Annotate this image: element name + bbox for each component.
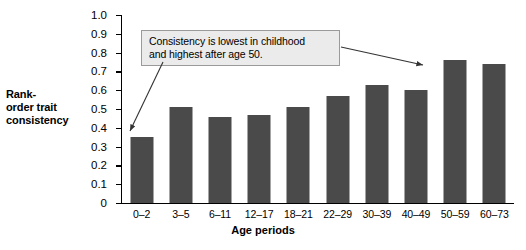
y-axis-tick-label: 0.5 xyxy=(77,103,107,115)
x-axis-tick-label: 50–59 xyxy=(441,208,470,220)
bar-group: 60–73 xyxy=(475,15,514,203)
bar-group: 40–49 xyxy=(396,15,435,203)
y-axis-tick-label: 0.8 xyxy=(77,47,107,59)
x-axis-line xyxy=(121,203,514,204)
bar xyxy=(444,60,467,203)
annotation-callout: Consistency is lowest in childhood and h… xyxy=(141,30,340,66)
bar xyxy=(130,137,153,203)
annotation-line-1: Consistency is lowest in childhood xyxy=(149,35,333,48)
y-axis-tick-label: 0.2 xyxy=(77,159,107,171)
x-axis-title: Age periods xyxy=(0,224,526,236)
bar xyxy=(248,115,271,203)
x-axis-tick-label: 3–5 xyxy=(172,208,189,220)
y-axis-tick-label: 1.0 xyxy=(77,9,107,21)
y-axis-tick-label: 0.4 xyxy=(77,122,107,134)
bar xyxy=(208,117,231,203)
y-axis-tick: 0 xyxy=(116,203,122,204)
x-axis-tick-label: 12–17 xyxy=(245,208,274,220)
bar xyxy=(365,85,388,203)
y-axis-tick-label: 0.1 xyxy=(77,178,107,190)
y-axis-tick-label: 0 xyxy=(77,197,107,209)
y-axis-tick-label: 0.6 xyxy=(77,84,107,96)
bar-group: 30–39 xyxy=(357,15,396,203)
annotation-line-2: and highest after age 50. xyxy=(149,48,333,61)
x-axis-tick-label: 6–11 xyxy=(209,208,231,220)
y-axis-tick-label: 0.9 xyxy=(77,28,107,40)
x-axis-tick-label: 30–39 xyxy=(362,208,391,220)
x-axis-tick-label: 40–49 xyxy=(402,208,431,220)
bar-group: 50–59 xyxy=(436,15,475,203)
x-axis-tick-label: 60–73 xyxy=(480,208,509,220)
bar xyxy=(326,96,349,203)
bar-chart-figure: Rank- order trait consistency 00.10.20.3… xyxy=(0,0,526,250)
x-axis-tick-label: 22–29 xyxy=(323,208,352,220)
bar xyxy=(483,64,506,203)
y-axis-tick-label: 0.3 xyxy=(77,141,107,153)
x-axis-tick-label: 0–2 xyxy=(133,208,150,220)
x-axis-tick-label: 18–21 xyxy=(284,208,313,220)
bar xyxy=(169,107,192,203)
bar xyxy=(404,90,427,203)
y-axis-tick-label: 0.7 xyxy=(77,65,107,77)
bar xyxy=(287,107,310,203)
